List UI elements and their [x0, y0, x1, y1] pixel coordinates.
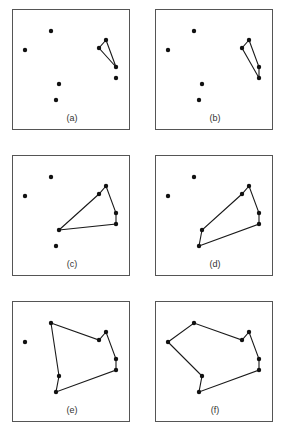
- panel-label: (a): [13, 113, 131, 123]
- panel-label: (c): [13, 259, 131, 269]
- diagram-panel-c: (c): [12, 155, 130, 276]
- point-h: [197, 390, 201, 394]
- point-c: [247, 184, 251, 188]
- point-f: [257, 76, 261, 80]
- diagram-panel-f: (f): [155, 301, 273, 422]
- point-e: [114, 357, 118, 361]
- point-e: [114, 65, 118, 69]
- point-a: [192, 29, 196, 33]
- point-d: [240, 192, 244, 196]
- point-c: [104, 38, 108, 42]
- point-g: [200, 374, 204, 378]
- point-b: [166, 48, 170, 52]
- point-f: [114, 76, 118, 80]
- point-g: [57, 374, 61, 378]
- point-h: [54, 390, 58, 394]
- point-h: [197, 244, 201, 248]
- point-d: [240, 46, 244, 50]
- point-d: [97, 338, 101, 342]
- point-a: [49, 321, 53, 325]
- point-b: [23, 340, 27, 344]
- point-d: [97, 46, 101, 50]
- point-e: [257, 65, 261, 69]
- diagram-panel-b: (b): [155, 9, 273, 130]
- point-c: [247, 330, 251, 334]
- point-a: [49, 29, 53, 33]
- point-c: [104, 184, 108, 188]
- hull-edge-path: [168, 323, 259, 392]
- point-f: [257, 222, 261, 226]
- point-g: [200, 82, 204, 86]
- point-f: [114, 368, 118, 372]
- point-e: [257, 211, 261, 215]
- panel-label: (f): [156, 405, 274, 415]
- point-g: [57, 228, 61, 232]
- point-a: [192, 321, 196, 325]
- point-h: [54, 244, 58, 248]
- panel-label: (d): [156, 259, 274, 269]
- point-b: [23, 194, 27, 198]
- point-h: [197, 98, 201, 102]
- point-c: [247, 38, 251, 42]
- point-c: [104, 330, 108, 334]
- panel-label: (b): [156, 113, 274, 123]
- point-b: [166, 194, 170, 198]
- hull-edge-path: [199, 186, 259, 246]
- point-d: [240, 338, 244, 342]
- point-e: [114, 211, 118, 215]
- point-b: [23, 48, 27, 52]
- point-e: [257, 357, 261, 361]
- hull-edge-path: [242, 40, 259, 78]
- point-b: [166, 340, 170, 344]
- point-d: [97, 192, 101, 196]
- point-a: [49, 175, 53, 179]
- hull-edge-path: [59, 186, 116, 230]
- diagram-panel-a: (a): [12, 9, 130, 130]
- point-h: [54, 98, 58, 102]
- point-f: [114, 222, 118, 226]
- point-g: [200, 228, 204, 232]
- panel-label: (e): [13, 405, 131, 415]
- diagram-panel-e: (e): [12, 301, 130, 422]
- diagram-panel-d: (d): [155, 155, 273, 276]
- hull-edge-path: [99, 40, 116, 67]
- point-a: [192, 175, 196, 179]
- point-f: [257, 368, 261, 372]
- point-g: [57, 82, 61, 86]
